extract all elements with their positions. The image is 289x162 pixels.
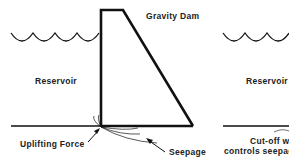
- reservoir-label-left: Reservoir: [35, 76, 77, 86]
- seepage-label: Seepage: [169, 147, 206, 157]
- uplifting-force-label: Uplifting Force: [20, 139, 84, 149]
- reservoir-label-right: Reservoir: [246, 76, 288, 86]
- cutoff-label-line2: controls seepage: [224, 146, 289, 156]
- water-waves-right: [223, 33, 289, 41]
- dam-diagram: Gravity Dam Reservoir Uplifting Force Se…: [0, 0, 289, 162]
- seepage-line-right: [274, 130, 289, 132]
- gravity-dam-shape: [101, 10, 193, 126]
- gravity-dam-label: Gravity Dam: [146, 11, 200, 21]
- uplift-arrow-icon: [88, 128, 100, 142]
- cutoff-label-line1: Cut-off w: [250, 136, 289, 146]
- seepage-arrow-icon: [146, 138, 165, 152]
- water-waves: [11, 33, 99, 41]
